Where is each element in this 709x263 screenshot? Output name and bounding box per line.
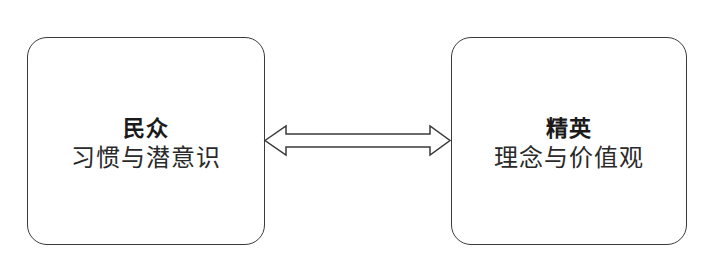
node-populace-subtitle: 习惯与潜意识 (71, 143, 221, 173)
node-populace: 民众 习惯与潜意识 (27, 37, 265, 245)
node-elite: 精英 理念与价值观 (451, 37, 687, 245)
node-elite-subtitle: 理念与价值观 (494, 143, 644, 173)
node-elite-title: 精英 (546, 115, 592, 143)
double-arrow-shape (265, 126, 450, 155)
node-populace-title: 民众 (123, 115, 169, 143)
